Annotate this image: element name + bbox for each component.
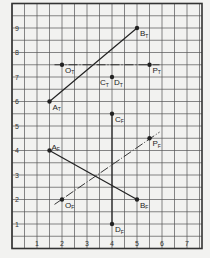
y-tick-label: 9 (15, 25, 19, 32)
grid (12, 4, 202, 249)
label-df: DF (115, 225, 124, 235)
label-bf: BF (140, 201, 148, 211)
x-tick-label: 5 (135, 240, 139, 247)
point-at (47, 99, 51, 103)
point-bt (135, 26, 139, 30)
point-pf (147, 136, 151, 140)
y-tick-label: 4 (15, 147, 19, 154)
label-at: AT (53, 103, 61, 113)
label-ot: OT (65, 66, 74, 76)
point-ot (60, 63, 64, 67)
point-df (110, 222, 114, 226)
points: ATBTOTPTCTAFBFOFPFCFDFDT (47, 26, 161, 235)
y-tick-label: 7 (15, 74, 19, 81)
x-tick-label: 2 (60, 240, 64, 247)
label-of: OF (65, 201, 74, 211)
point-of (60, 197, 64, 201)
y-tick-label: 5 (15, 123, 19, 130)
label-dt: DT (114, 78, 123, 88)
y-tick-label: 6 (15, 98, 19, 105)
y-tick-label: 3 (15, 172, 19, 179)
point-cf (110, 112, 114, 116)
x-tick-label: 4 (110, 240, 114, 247)
point-pt (147, 63, 151, 67)
label-pt: PT (153, 66, 161, 76)
x-tick-label: 6 (160, 240, 164, 247)
label-cf: CF (115, 115, 124, 125)
label-pf: PF (153, 139, 161, 149)
point-bf (135, 197, 139, 201)
label-bt: BT (140, 29, 148, 39)
orthographic-projection-diagram: 1234567123456789 ATBTOTPTCTAFBFOFPFCFDFD… (0, 0, 210, 258)
label-af: AF (52, 143, 60, 153)
y-tick-label: 1 (15, 221, 19, 228)
x-tick-label: 7 (185, 240, 189, 247)
x-tick-label: 3 (85, 240, 89, 247)
line-OF-PF (55, 132, 160, 204)
y-tick-label: 2 (15, 196, 19, 203)
x-tick-label: 1 (35, 240, 39, 247)
y-tick-label: 8 (15, 49, 19, 56)
label-ctdt: CT (100, 78, 109, 88)
